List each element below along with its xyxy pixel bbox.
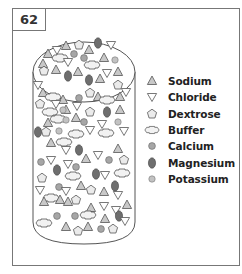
legend-item-magnesium: Magnesium [144,154,235,170]
legend-item-potassium: Potassium [144,171,235,187]
legend-item-calcium: Calcium [144,138,235,154]
legend-label: Dextrose [168,108,221,120]
legend-item-chloride: Chloride [144,89,235,105]
triangle-down-icon [144,90,160,104]
legend-label: Magnesium [168,157,235,169]
legend-label: Sodium [168,75,212,87]
triangle-up-icon [144,74,160,88]
legend-label: Potassium [168,173,229,185]
legend-item-sodium: Sodium [144,73,235,89]
buffer-hexagon-icon [144,123,160,137]
pentagon-icon [144,107,160,121]
legend: Sodium Chloride Dextrose Buffer Calcium … [144,73,235,187]
circle-icon [144,139,160,153]
legend-label: Calcium [168,140,214,152]
legend-item-dextrose: Dextrose [144,106,235,122]
legend-item-buffer: Buffer [144,122,235,138]
oval-icon [144,156,160,170]
legend-label: Buffer [168,124,204,136]
small-circle-icon [144,172,160,186]
legend-label: Chloride [168,91,217,103]
